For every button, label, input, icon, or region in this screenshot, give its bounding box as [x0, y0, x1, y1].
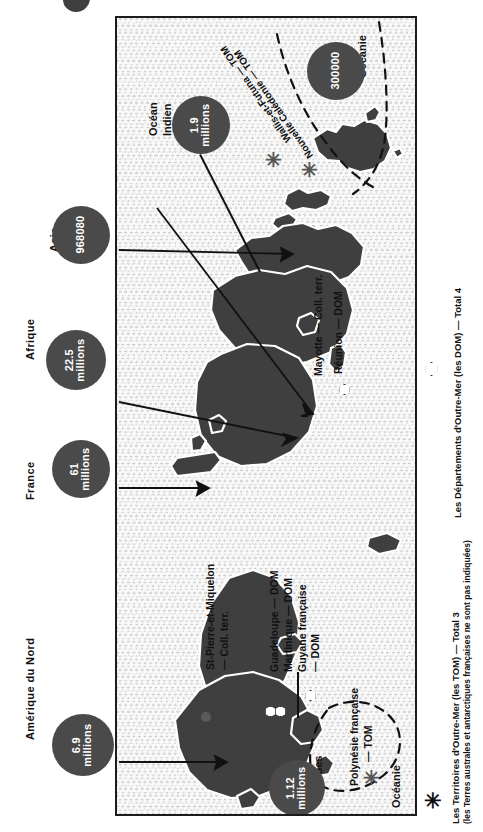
region-label-afrique: Afrique [24, 319, 36, 360]
map-canvas: Océanie Wallis-et-Futuna — TOM ✳ Nouvell… [115, 16, 417, 816]
region-label-france: France [24, 462, 36, 500]
map-figure: Océanie Wallis-et-Futuna — TOM ✳ Nouvell… [0, 0, 483, 832]
bubble-france-value: 61 millions [70, 447, 92, 490]
top-cropped-graphic [63, 0, 90, 12]
bubble-afrique: 22.5 millions [46, 330, 106, 390]
legend-star-icon: ✳ [424, 790, 442, 811]
bubble-amerique-du-nord: 6.9 millions [52, 714, 114, 776]
bubble-afrique-l2: millions [75, 338, 87, 381]
region-label-amerique-du-nord: Amérique du Nord [24, 638, 36, 740]
legend-hexagon-icon [425, 362, 438, 376]
legend-tom-note: (les Terres australes et antarctiques fr… [462, 540, 472, 824]
legend-tom-text: Les Territoires d'Outre-Mer (les TOM) — … [450, 612, 462, 824]
bubble-amerique-value: 6.9 millions [72, 723, 94, 766]
bubble-france: 61 millions [52, 440, 110, 498]
bubble-asie-value: 968080 [75, 216, 86, 254]
bubble-asie: 968080 [52, 206, 110, 264]
leader-arrows [117, 18, 415, 814]
bubble-afrique-value: 22.5 millions [65, 338, 87, 381]
bubble-amerique-l2: millions [82, 723, 94, 766]
legend-dom-text: Les Départements d'Outre-Mer (les DOM) —… [452, 288, 464, 518]
bubble-france-l2: millions [80, 447, 92, 490]
